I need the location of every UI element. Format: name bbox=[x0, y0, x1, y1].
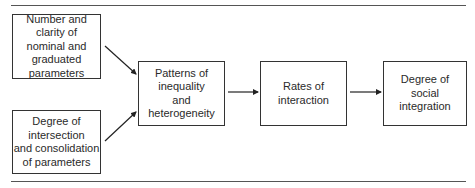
arrow-number-to-patterns bbox=[105, 46, 136, 74]
arrow-intersection-to-patterns bbox=[105, 112, 136, 141]
edge-arrows bbox=[0, 0, 475, 188]
